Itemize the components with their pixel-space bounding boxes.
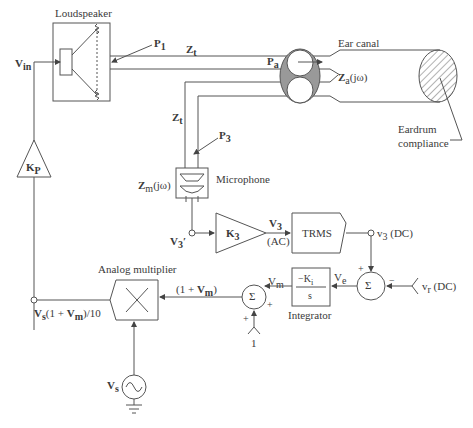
zt-top-label: Zt xyxy=(186,44,197,58)
vs-label: Vs xyxy=(107,380,119,394)
k3-label: K3 xyxy=(226,228,240,242)
diagram-canvas xyxy=(0,0,473,428)
p3-label: P3 xyxy=(219,130,231,144)
loudspeaker-label: Loudspeaker xyxy=(55,8,112,19)
p1-label: P1 xyxy=(154,38,166,52)
microphone-block xyxy=(176,168,208,202)
ve-label: Ve xyxy=(334,272,346,286)
sum-error-symbol: Σ xyxy=(365,280,371,291)
vr-dc-label: vr (DC) xyxy=(422,281,456,295)
sum-error-plus: + xyxy=(358,264,364,274)
zm-label: Zm(jω) xyxy=(138,180,171,194)
integrator-denominator: s xyxy=(308,291,312,301)
v3-ac-note: (AC) xyxy=(267,236,290,247)
vin-wire xyxy=(34,62,60,330)
eardrum-label: Eardrumcompliance xyxy=(398,124,449,149)
loudspeaker-block xyxy=(53,23,110,101)
vm-label: Vm xyxy=(268,276,284,290)
kp-label: KP xyxy=(26,162,41,176)
constant-one-label: 1 xyxy=(251,338,257,349)
sum-mod-symbol: Σ xyxy=(249,291,255,302)
v3-prime-label: V3′ xyxy=(170,236,186,250)
analog-multiplier xyxy=(110,280,158,320)
sum-mod-plus-bottom: + xyxy=(243,314,249,324)
eardrum xyxy=(419,50,457,102)
pa-label: Pa xyxy=(267,56,279,70)
trms-label: TRMS xyxy=(302,228,332,239)
sum-error-minus: − xyxy=(389,276,395,286)
zt-left-label: Zt xyxy=(172,112,183,126)
v3-dc-label: v3 (DC) xyxy=(377,228,413,242)
k3-amplifier xyxy=(216,213,266,253)
integrator-numerator: −Ki xyxy=(298,274,313,287)
v3-ac-label: V3 xyxy=(269,218,282,232)
vin-label: Vin xyxy=(15,58,31,72)
one-plus-vm-label: (1 + Vm) xyxy=(176,284,217,298)
microphone-label: Microphone xyxy=(216,174,270,185)
analog-multiplier-label: Analog multiplier xyxy=(98,264,177,275)
integrator-label: Integrator xyxy=(288,310,331,321)
output-label: Vs(1 + Vm)/10 xyxy=(34,308,101,322)
za-label: Za(jω) xyxy=(338,72,367,86)
ear-canal-label: Ear canal xyxy=(338,38,379,49)
sum-mod-plus-right: + xyxy=(267,300,273,310)
